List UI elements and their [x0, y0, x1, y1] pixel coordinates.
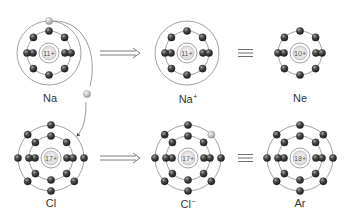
shell-electron: [281, 139, 288, 146]
shell-electron: [24, 131, 31, 138]
element-symbol: Ne: [293, 92, 307, 104]
shell-electron: [273, 178, 280, 185]
shell-electron: [217, 154, 224, 161]
atom-ne: 10+: [274, 27, 325, 78]
atom-cl: 17+: [14, 121, 87, 194]
label-na: Na: [43, 93, 57, 104]
shell-electron: [200, 170, 207, 177]
reaction-arrow: [100, 153, 140, 163]
shell-electron: [312, 65, 319, 72]
shell-electron: [162, 154, 169, 161]
shell-electron: [274, 154, 281, 161]
shell-electron: [205, 49, 212, 56]
element-symbol: Ar: [295, 197, 306, 209]
ion-charge: −: [191, 198, 195, 205]
shell-electron: [296, 27, 303, 34]
shell-electron: [23, 49, 30, 56]
shell-electron: [69, 154, 76, 161]
shell-electron: [184, 176, 191, 183]
shell-electron: [161, 49, 168, 56]
shell-electron: [318, 154, 325, 161]
ionic-bond-diagram: 11+11+10+17+17+18+: [0, 0, 348, 220]
shell-electron: [184, 121, 191, 128]
atom-ar: 18+: [263, 121, 336, 194]
shell-electron: [312, 139, 319, 146]
shell-electron: [184, 132, 191, 139]
shell-electron: [206, 154, 213, 161]
element-symbol: Cl: [181, 198, 191, 210]
shell-electron: [318, 49, 325, 56]
shell-electron: [169, 139, 176, 146]
shell-electron: [151, 154, 158, 161]
shell-electron: [263, 154, 270, 161]
nucleus-charge: 11+: [181, 49, 193, 58]
nucleus-charge: 11+: [43, 49, 55, 58]
shell-electron: [281, 65, 288, 72]
shell-electron: [47, 132, 54, 139]
shell-electron: [45, 27, 52, 34]
shell-electron: [183, 71, 190, 78]
equivalence-sign: [238, 155, 253, 162]
shell-electron: [296, 187, 303, 194]
shell-electron: [296, 121, 303, 128]
shell-electron: [32, 170, 39, 177]
shell-electron: [168, 34, 175, 41]
shell-electron: [168, 65, 175, 72]
shell-electron: [199, 65, 206, 72]
shell-electron: [30, 65, 37, 72]
electron-transfer: [53, 21, 92, 136]
atom-cl-ion: 17+: [151, 121, 224, 194]
shell-electron: [80, 154, 87, 161]
shell-electron: [273, 131, 280, 138]
ion-charge: +: [193, 93, 197, 100]
shell-electron: [274, 49, 281, 56]
shell-electron: [61, 34, 68, 41]
transferred-electron: [208, 131, 215, 138]
shell-electron: [296, 132, 303, 139]
shell-electron: [281, 34, 288, 41]
operators-layer: [100, 48, 253, 163]
shell-electron: [208, 178, 215, 185]
reaction-arrow: [100, 48, 140, 58]
shell-electron: [184, 187, 191, 194]
shell-electron: [312, 34, 319, 41]
shell-electron: [320, 131, 327, 138]
shell-electron: [169, 170, 176, 177]
shell-electron: [47, 121, 54, 128]
label-na-ion: Na+: [179, 93, 198, 105]
element-symbol: Na: [43, 92, 57, 104]
nucleus-charge: 17+: [182, 154, 194, 163]
element-symbol: Cl: [46, 197, 56, 209]
atoms-layer: 11+11+10+17+17+18+: [14, 17, 336, 194]
shell-electron: [14, 154, 21, 161]
shell-electron: [183, 27, 190, 34]
shell-electron: [161, 131, 168, 138]
shell-electron: [47, 176, 54, 183]
nucleus-charge: 18+: [294, 154, 306, 163]
shell-electron: [63, 170, 70, 177]
shell-electron: [329, 154, 336, 161]
shell-electron: [25, 154, 32, 161]
nucleus-charge: 10+: [294, 49, 306, 58]
nucleus-charge: 17+: [45, 154, 57, 163]
shell-electron: [47, 187, 54, 194]
shell-electron: [320, 178, 327, 185]
shell-electron: [45, 71, 52, 78]
shell-electron: [296, 71, 303, 78]
transfer-path-lower: [77, 102, 86, 136]
atom-na: 11+: [17, 17, 81, 85]
shell-electron: [61, 65, 68, 72]
label-ne: Ne: [293, 93, 307, 104]
atom-na-ion: 11+: [155, 21, 219, 85]
shell-electron: [312, 170, 319, 177]
shell-electron: [30, 34, 37, 41]
shell-electron: [199, 34, 206, 41]
shell-electron: [200, 139, 207, 146]
shell-electron: [71, 178, 78, 185]
label-cl: Cl: [46, 198, 56, 209]
valence-electron: [45, 17, 52, 24]
shell-electron: [32, 139, 39, 146]
moving-electron: [83, 90, 90, 97]
shell-electron: [281, 170, 288, 177]
shell-electron: [296, 176, 303, 183]
